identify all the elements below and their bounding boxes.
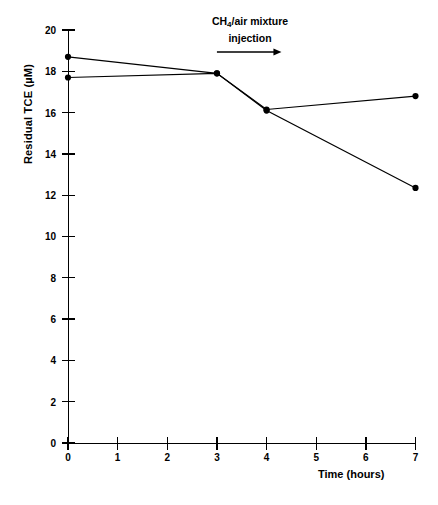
series-lower-point (412, 185, 418, 191)
series-lower-line (68, 73, 416, 188)
series-lower-point (214, 70, 220, 76)
series-lower (65, 70, 419, 191)
plot-area (0, 0, 438, 505)
series-upper-point (65, 54, 71, 60)
injection-arrow (217, 48, 282, 55)
series-lower-point (263, 107, 269, 113)
chart-figure: Residual TCE (µM) 02468101214161820 0123… (0, 0, 438, 505)
series-upper-point (412, 93, 418, 99)
series-lower-point (65, 74, 71, 80)
series-upper (65, 54, 419, 113)
arrow-head-icon (273, 48, 281, 55)
series-upper-line (68, 57, 416, 110)
